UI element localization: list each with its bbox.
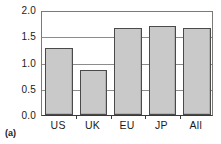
- bar: [149, 26, 177, 115]
- bar-series: [42, 12, 212, 115]
- y-axis-tick-label: 0.5: [10, 85, 36, 95]
- x-axis-category-label: US: [41, 119, 75, 132]
- bar: [45, 48, 73, 115]
- bar: [183, 28, 211, 115]
- y-axis-tick-label: 1.5: [10, 32, 36, 42]
- panel-label: (a): [5, 128, 16, 139]
- y-axis-tick-label: 2.0: [10, 6, 36, 16]
- y-axis-tick-label: 0.0: [10, 111, 36, 121]
- plot-area: [41, 11, 213, 116]
- bar: [114, 28, 142, 115]
- x-axis-category-label: UK: [75, 119, 109, 132]
- bar-chart-figure: 2.01.51.00.50.0 USUKEUJPAll (a): [0, 0, 221, 144]
- x-axis-category-label: EU: [110, 119, 144, 132]
- y-axis-tick-labels: 2.01.51.00.50.0: [8, 0, 36, 144]
- bar: [80, 70, 108, 115]
- x-axis-category-label: All: [179, 119, 213, 132]
- x-axis-tick-labels: USUKEUJPAll: [41, 119, 213, 133]
- x-axis-category-label: JP: [144, 119, 178, 132]
- y-axis-tick-label: 1.0: [10, 59, 36, 69]
